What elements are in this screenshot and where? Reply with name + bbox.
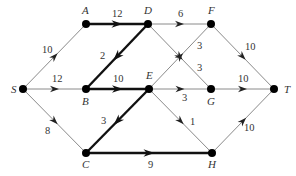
edge-weight-label: 10 <box>42 44 53 55</box>
node-f <box>207 20 215 28</box>
edge-a-d <box>86 20 148 28</box>
node-s <box>19 85 27 93</box>
edge-weight-label: 12 <box>112 8 123 19</box>
edge-weight-label: 12 <box>52 73 63 84</box>
network-flow-diagram: 10128122631033311010910SABCDEFGHT <box>0 0 296 176</box>
edge-weight-label: 10 <box>113 73 124 84</box>
edge-weight-label: 10 <box>244 122 255 133</box>
edge-s-c <box>23 89 86 153</box>
node-label-h: H <box>207 158 217 170</box>
node-label-e: E <box>145 69 153 81</box>
node-b <box>82 85 90 93</box>
node-a <box>82 20 90 28</box>
edge-weight-label: 3 <box>101 115 106 126</box>
edge-weight-label: 3 <box>197 40 202 51</box>
node-label-a: A <box>81 4 89 16</box>
node-g <box>207 85 215 93</box>
node-d <box>144 20 152 28</box>
node-e <box>145 85 153 93</box>
edge-e-c <box>86 89 149 153</box>
edge-weight-label: 10 <box>245 41 256 52</box>
edge-g-t <box>211 86 274 92</box>
edge-weight-label: 1 <box>190 116 195 127</box>
node-label-g: G <box>207 95 215 107</box>
edge-weight-label: 3 <box>197 62 202 73</box>
edge-e-h <box>149 89 212 153</box>
edge-h-t <box>212 89 274 153</box>
node-t <box>270 85 278 93</box>
node-label-s: S <box>11 83 17 95</box>
node-label-b: B <box>82 95 89 107</box>
edge-weight-label: 10 <box>238 73 249 84</box>
edge-c-h <box>86 149 212 157</box>
edge-weight-label: 2 <box>100 50 105 61</box>
edge-weight-label: 3 <box>182 92 187 103</box>
edge-weight-label: 6 <box>178 8 183 19</box>
edge-weight-label: 8 <box>45 125 50 136</box>
edge-s-b <box>23 86 86 92</box>
edge-weight-label: 9 <box>148 159 153 170</box>
node-label-c: C <box>82 158 90 170</box>
node-label-f: F <box>207 4 215 16</box>
node-h <box>208 149 216 157</box>
node-label-d: D <box>143 4 152 16</box>
node-label-t: T <box>284 83 291 95</box>
edge-e-g <box>149 86 211 92</box>
edge-d-f <box>148 21 211 27</box>
node-c <box>82 149 90 157</box>
edge-b-e <box>86 85 149 93</box>
